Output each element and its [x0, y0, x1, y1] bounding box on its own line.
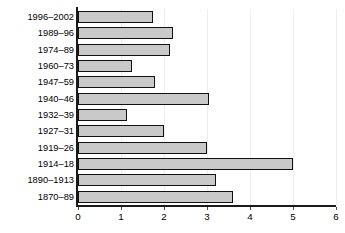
x-tick-label: 4: [247, 211, 252, 223]
category-label: 1974–89: [0, 45, 74, 55]
bar: [78, 27, 173, 39]
bar: [78, 125, 164, 137]
category-label: 1890–1913: [0, 175, 74, 185]
bar: [78, 142, 207, 154]
bar-row: [78, 172, 336, 188]
category-label: 1960–73: [0, 61, 74, 71]
bar-row: [78, 42, 336, 58]
bar: [78, 60, 132, 72]
bar-chart: 1996–20021989–961974–891960–731947–59194…: [0, 0, 345, 233]
bar: [78, 11, 153, 23]
bar-row: [78, 140, 336, 156]
x-tick-mark: [336, 207, 337, 210]
x-tick-label: 0: [75, 211, 80, 223]
category-label: 1914–18: [0, 159, 74, 169]
x-tick-label: 2: [161, 211, 166, 223]
x-tick-label: 1: [118, 211, 123, 223]
x-tick-mark: [78, 207, 79, 210]
x-tick-mark: [121, 207, 122, 210]
bar-row: [78, 156, 336, 172]
bar: [78, 76, 155, 88]
bar-row: [78, 91, 336, 107]
x-tick-mark: [164, 207, 165, 210]
x-tick-mark: [207, 207, 208, 210]
bar-row: [78, 189, 336, 205]
gridline: [336, 9, 337, 205]
plot-area: [78, 9, 336, 205]
x-tick-mark: [250, 207, 251, 210]
bar: [78, 44, 170, 56]
x-tick-label: 3: [204, 211, 209, 223]
category-label: 1932–39: [0, 110, 74, 120]
category-label: 1927–31: [0, 126, 74, 136]
x-tick-label: 5: [290, 211, 295, 223]
bar-row: [78, 74, 336, 90]
bar: [78, 191, 233, 203]
category-label: 1919–26: [0, 143, 74, 153]
x-tick-mark: [293, 207, 294, 210]
category-label: 1989–96: [0, 28, 74, 38]
x-axis-line: [76, 205, 336, 207]
bar-row: [78, 107, 336, 123]
category-axis-labels: 1996–20021989–961974–891960–731947–59194…: [0, 9, 74, 205]
category-label: 1940–46: [0, 94, 74, 104]
bar: [78, 158, 293, 170]
bar: [78, 93, 209, 105]
bar-row: [78, 58, 336, 74]
x-axis-labels: 0123456: [0, 211, 345, 227]
bar: [78, 174, 216, 186]
x-tick-label: 6: [333, 211, 338, 223]
bar-row: [78, 9, 336, 25]
category-label: 1947–59: [0, 77, 74, 87]
bar-row: [78, 123, 336, 139]
bar-series: [78, 9, 336, 205]
category-label: 1870–89: [0, 192, 74, 202]
bar: [78, 109, 127, 121]
category-label: 1996–2002: [0, 12, 74, 22]
bar-row: [78, 25, 336, 41]
